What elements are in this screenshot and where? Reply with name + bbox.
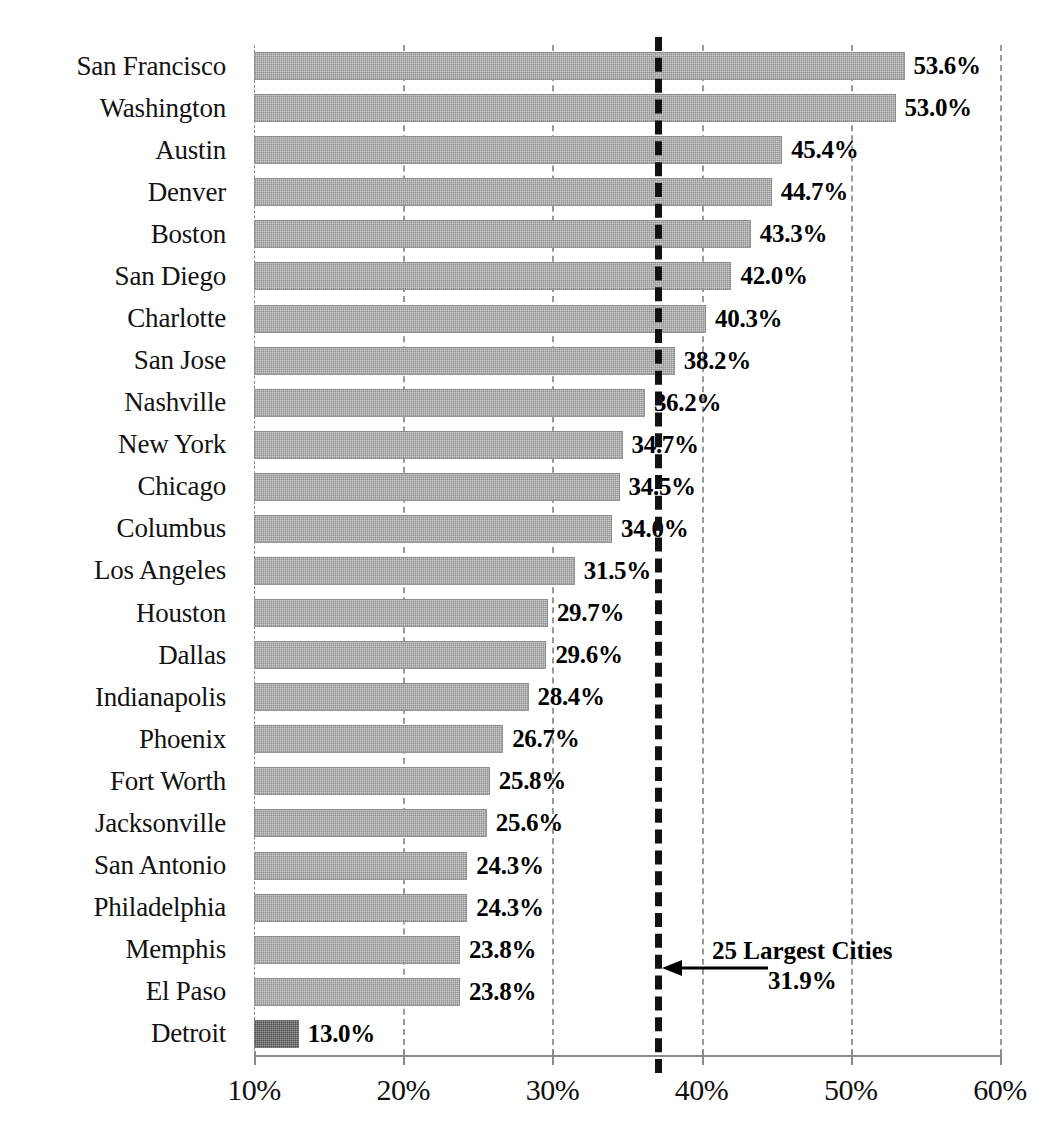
bar <box>254 936 460 964</box>
category-label: Phoenix <box>0 718 236 760</box>
bar-value-label: 53.6% <box>914 52 981 80</box>
bar-row: 34.7% <box>254 424 1000 466</box>
bar-row: 29.7% <box>254 592 1000 634</box>
bar-row: 45.4% <box>254 129 1000 171</box>
bar-value-label: 42.0% <box>740 262 807 290</box>
category-label: El Paso <box>0 971 236 1013</box>
bar <box>254 557 575 585</box>
x-tick <box>702 1051 704 1065</box>
bar <box>254 641 546 669</box>
category-label: Detroit <box>0 1013 236 1055</box>
bar <box>254 809 487 837</box>
category-label: Dallas <box>0 634 236 676</box>
bar-value-label: 29.6% <box>555 641 622 669</box>
bar <box>254 515 612 543</box>
bar-value-label: 45.4% <box>791 136 858 164</box>
x-tick-label: 20% <box>376 1073 430 1107</box>
left-arrow-icon <box>660 955 770 985</box>
category-label: San Antonio <box>0 844 236 886</box>
bar-value-label: 23.8% <box>469 936 536 964</box>
bar-row: 24.3% <box>254 844 1000 886</box>
x-axis: 10%20%30%40%50%60% <box>254 1055 1000 1057</box>
bar-value-label: 28.4% <box>538 683 605 711</box>
category-label: Los Angeles <box>0 550 236 592</box>
bar-value-label: 23.8% <box>469 978 536 1006</box>
bar-value-label: 38.2% <box>684 347 751 375</box>
category-label: San Francisco <box>0 45 236 87</box>
category-label: Chicago <box>0 466 236 508</box>
category-label: Washington <box>0 87 236 129</box>
bar-value-label: 29.7% <box>557 599 624 627</box>
category-label: Austin <box>0 129 236 171</box>
category-label: Columbus <box>0 508 236 550</box>
bar-value-label: 24.3% <box>476 852 543 880</box>
bar-row: 25.8% <box>254 760 1000 802</box>
category-label: Boston <box>0 213 236 255</box>
bar <box>254 136 782 164</box>
bar-row: 13.0% <box>254 1013 1000 1055</box>
plot-area: 53.6%53.0%45.4%44.7%43.3%42.0%40.3%38.2%… <box>254 45 1000 1055</box>
category-label: Fort Worth <box>0 760 236 802</box>
bar <box>254 305 706 333</box>
bar-value-label: 43.3% <box>760 220 827 248</box>
bar <box>254 389 645 417</box>
bar <box>254 473 620 501</box>
bar <box>254 978 460 1006</box>
category-label: Nashville <box>0 382 236 424</box>
bar-row: 53.0% <box>254 87 1000 129</box>
reference-line <box>655 37 662 1073</box>
category-label: San Jose <box>0 340 236 382</box>
category-label: Indianapolis <box>0 676 236 718</box>
bar <box>254 347 675 375</box>
bar <box>254 852 467 880</box>
bar-row: 28.4% <box>254 676 1000 718</box>
category-label: New York <box>0 424 236 466</box>
bar-row: 25.6% <box>254 802 1000 844</box>
bar-row: 40.3% <box>254 297 1000 339</box>
category-label: Memphis <box>0 929 236 971</box>
bar-value-label: 44.7% <box>781 178 848 206</box>
bar-value-label: 25.8% <box>499 767 566 795</box>
category-label: Denver <box>0 171 236 213</box>
bar-row: 26.7% <box>254 718 1000 760</box>
x-tick-label: 40% <box>675 1073 729 1107</box>
bar-value-label: 24.3% <box>476 894 543 922</box>
bar-row: 36.2% <box>254 382 1000 424</box>
bar <box>254 725 503 753</box>
gridline-60 <box>1000 45 1002 1055</box>
bar <box>254 767 490 795</box>
bar-value-label: 13.0% <box>308 1020 375 1048</box>
bar-value-label: 31.5% <box>584 557 651 585</box>
bar-row: 31.5% <box>254 550 1000 592</box>
bar-value-label: 34.7% <box>632 431 699 459</box>
category-label: San Diego <box>0 255 236 297</box>
bar-value-label: 40.3% <box>715 305 782 333</box>
x-tick <box>552 1051 554 1065</box>
x-tick <box>1000 1051 1002 1065</box>
bar-value-label: 53.0% <box>905 94 972 122</box>
bar <box>254 431 623 459</box>
bar-chart: San FranciscoWashingtonAustinDenverBosto… <box>0 0 1053 1136</box>
category-label: Philadelphia <box>0 887 236 929</box>
bar <box>254 683 529 711</box>
bar-row: 43.3% <box>254 213 1000 255</box>
bar-row: 42.0% <box>254 255 1000 297</box>
x-tick-label: 60% <box>973 1073 1027 1107</box>
bar-row: 29.6% <box>254 634 1000 676</box>
category-label: Houston <box>0 592 236 634</box>
x-tick <box>403 1051 405 1065</box>
x-tick-label: 30% <box>526 1073 580 1107</box>
bar-value-label: 25.6% <box>496 809 563 837</box>
bar-row: 38.2% <box>254 340 1000 382</box>
bar <box>254 894 467 922</box>
x-tick <box>254 1051 256 1065</box>
category-axis-labels: San FranciscoWashingtonAustinDenverBosto… <box>0 45 236 1055</box>
bar-rows: 53.6%53.0%45.4%44.7%43.3%42.0%40.3%38.2%… <box>254 45 1000 1055</box>
category-label: Charlotte <box>0 297 236 339</box>
bar-row: 53.6% <box>254 45 1000 87</box>
category-label: Jacksonville <box>0 802 236 844</box>
bar-value-label: 26.7% <box>512 725 579 753</box>
bar-row: 24.3% <box>254 887 1000 929</box>
bar-row: 34.0% <box>254 508 1000 550</box>
bar-row: 44.7% <box>254 171 1000 213</box>
